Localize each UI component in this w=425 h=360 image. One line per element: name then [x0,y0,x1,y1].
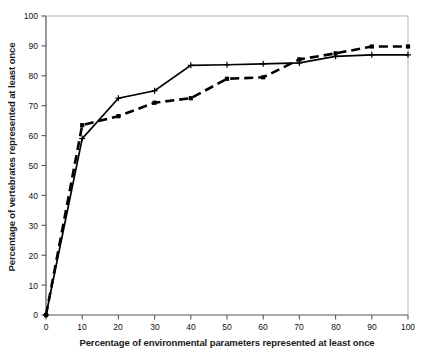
y-tick-label-70: 70 [18,101,38,111]
data-point-marker [405,52,411,58]
chart-figure: Percentage of vertebrates represented at… [0,0,425,360]
data-point-marker [80,123,84,127]
x-tick-label-100: 100 [396,322,420,332]
y-tick-label-60: 60 [18,131,38,141]
data-point-marker [225,77,229,81]
x-tick-label-20: 20 [106,322,130,332]
y-tick-label-10: 10 [18,281,38,291]
x-tick-label-0: 0 [34,322,58,332]
data-point-marker [261,75,265,79]
series-line-dashed-series [46,47,408,316]
y-tick-label-0: 0 [18,310,38,320]
data-point-marker [189,96,193,100]
y-tick-label-50: 50 [18,161,38,171]
x-tick-label-90: 90 [360,322,384,332]
x-tick-label-40: 40 [179,322,203,332]
data-point-marker [116,114,120,118]
x-tick-label-10: 10 [70,322,94,332]
data-point-marker [406,44,410,48]
y-axis-ticks [42,16,47,315]
x-axis-title: Percentage of environmental parameters r… [46,337,408,348]
data-point-marker [370,44,374,48]
x-axis-ticks [46,315,408,320]
y-tick-label-40: 40 [18,191,38,201]
x-tick-label-80: 80 [324,322,348,332]
y-tick-label-80: 80 [18,71,38,81]
data-point-marker [153,101,157,105]
x-tick-label-60: 60 [251,322,275,332]
plot-area [0,0,425,360]
x-tick-label-70: 70 [287,322,311,332]
data-point-marker [260,61,266,67]
series-line-solid-series [46,55,408,315]
series-layer [43,44,411,318]
y-tick-label-30: 30 [18,221,38,231]
x-tick-label-30: 30 [143,322,167,332]
data-point-marker [44,313,48,317]
y-tick-label-20: 20 [18,251,38,261]
y-tick-label-90: 90 [18,41,38,51]
data-point-marker [334,51,338,55]
y-tick-label-100: 100 [18,11,38,21]
axis-frame [46,16,408,315]
data-point-marker [369,52,375,58]
data-point-marker [224,62,230,68]
x-tick-label-50: 50 [215,322,239,332]
data-point-marker [297,57,301,61]
